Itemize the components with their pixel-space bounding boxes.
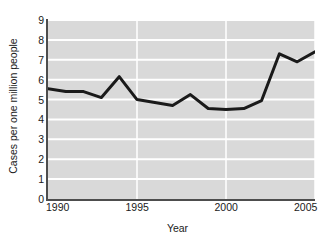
y-tick-label-1: 1: [28, 174, 44, 184]
y-tick-label-6: 6: [28, 75, 44, 85]
x-axis-spine: [46, 199, 315, 201]
y-tick-label-3: 3: [28, 134, 44, 144]
y-tick-label-2: 2: [28, 154, 44, 164]
y-tick-label-8: 8: [28, 35, 44, 45]
x-axis-title: Year: [0, 222, 335, 234]
chart-figure: Cases per one million people 0123456789 …: [0, 0, 335, 242]
y-tick-label-7: 7: [28, 55, 44, 65]
y-tick-label-9: 9: [28, 15, 44, 25]
line-chart-svg: [48, 20, 315, 199]
x-axis-tick-labels: 1990199520002005: [0, 202, 335, 216]
y-tick-label-5: 5: [28, 95, 44, 105]
y-axis-title: Cases per one million people: [7, 11, 19, 201]
gridlines: [48, 20, 315, 199]
x-tick-label-2005: 2005: [294, 202, 317, 213]
y-tick-label-4: 4: [28, 114, 44, 124]
x-axis-title-text: Year: [167, 222, 188, 234]
x-tick-label-1990: 1990: [46, 202, 69, 213]
plot-area: [48, 20, 315, 199]
x-tick-label-1995: 1995: [126, 202, 149, 213]
x-tick-label-2000: 2000: [215, 202, 238, 213]
